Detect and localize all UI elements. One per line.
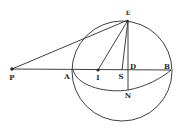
line-PE [12,20,128,69]
geometry-diagram [0,0,181,131]
point-I [96,68,99,71]
label-S: S [118,73,123,80]
label-N: N [125,92,131,99]
label-P: P [9,74,14,81]
label-D: D [130,63,136,70]
label-A: A [64,73,69,80]
label-E: E [126,10,131,16]
label-I: I [96,74,99,81]
line-IE [98,20,128,70]
line-PB [12,69,171,70]
point-P [10,67,14,71]
label-B: B [164,63,170,70]
line-SE [122,20,128,70]
